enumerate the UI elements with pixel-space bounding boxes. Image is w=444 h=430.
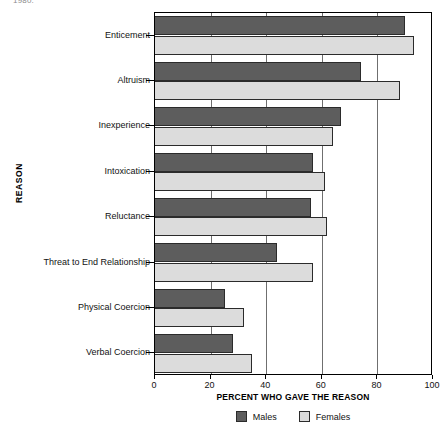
x-tick-mark [432,375,433,379]
bar-males-enticement [155,16,405,35]
bar-males-intoxication [155,153,313,172]
x-tick-mark [154,375,155,379]
bar-males-inexperience [155,107,341,126]
bar-males-altruism [155,62,361,81]
legend-swatch-icon [236,411,247,422]
chart-legend: MalesFemales [154,411,432,422]
x-tick-label: 40 [260,380,270,390]
bar-females-verbal-coercion [155,354,252,373]
x-tick-mark [376,375,377,379]
category-tick [146,125,154,126]
category-tick [146,35,154,36]
x-tick-label: 20 [205,380,215,390]
plot-area [154,12,432,375]
legend-label: Males [253,412,277,422]
category-label: Physical Coercion [78,301,150,313]
x-tick-label: 60 [316,380,326,390]
bar-females-enticement [155,36,414,55]
gridline [377,13,378,374]
bar-females-altruism [155,81,400,100]
category-tick [146,307,154,308]
category-tick [146,216,154,217]
category-tick [146,352,154,353]
x-tick-label: 0 [151,380,156,390]
category-label: Reluctance [105,210,150,222]
x-tick-mark [265,375,266,379]
bar-females-threat-to-end-relationship [155,263,313,282]
bar-males-physical-coercion [155,289,225,308]
category-label: Inexperience [98,119,150,131]
category-label-column: EnticementAltruismInexperienceIntoxicati… [0,12,154,375]
category-label: Verbal Coercion [86,346,150,358]
legend-item-females: Females [299,411,351,422]
bar-males-threat-to-end-relationship [155,243,277,262]
x-tick-label: 100 [424,380,439,390]
legend-label: Females [316,412,351,422]
bar-chart: 1980. REASON EnticementAltruismInexperie… [0,0,444,430]
category-label: Threat to End Relationship [43,256,150,268]
bar-females-reluctance [155,217,327,236]
bar-females-intoxication [155,172,325,191]
category-tick [146,80,154,81]
x-tick-label: 80 [371,380,381,390]
category-tick [146,171,154,172]
legend-swatch-icon [299,411,310,422]
category-tick [146,262,154,263]
x-axis-title: PERCENT WHO GAVE THE REASON [154,392,432,402]
bar-females-inexperience [155,127,333,146]
x-tick-mark [210,375,211,379]
bar-males-reluctance [155,198,311,217]
x-axis-ticks: 020406080100 [154,375,432,393]
top-text-fragment: 1980. [13,0,34,3]
category-label: Enticement [105,29,150,41]
bar-females-physical-coercion [155,308,244,327]
bar-males-verbal-coercion [155,334,233,353]
x-tick-mark [321,375,322,379]
legend-item-males: Males [236,411,277,422]
category-label: Intoxication [104,165,150,177]
